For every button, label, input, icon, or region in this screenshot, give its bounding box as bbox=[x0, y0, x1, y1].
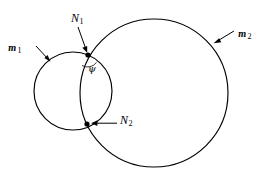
leader-N1 bbox=[78, 27, 87, 53]
label-curve-m2-subscript: 2 bbox=[247, 32, 251, 41]
label-curve-m1: m1 bbox=[8, 38, 21, 55]
label-node-N2-symbol: N bbox=[120, 113, 128, 127]
leader-N2 bbox=[91, 120, 117, 126]
label-node-N2-subscript: 2 bbox=[128, 119, 133, 128]
geometry-figure: m1 m2 N1 N2 ψ bbox=[0, 0, 265, 183]
label-node-N1-subscript: 1 bbox=[79, 17, 84, 26]
node-point-N2 bbox=[84, 121, 89, 126]
label-curve-m1-symbol: m bbox=[8, 43, 15, 52]
label-node-N1: N1 bbox=[71, 12, 84, 26]
label-angle-psi: ψ bbox=[88, 64, 96, 74]
figure-canvas bbox=[0, 0, 265, 183]
label-node-N2: N2 bbox=[120, 114, 133, 128]
leader-m2 bbox=[214, 31, 234, 43]
label-curve-m1-subscript: 1 bbox=[17, 46, 21, 55]
circle-m1 bbox=[34, 52, 112, 130]
leader-m1 bbox=[36, 46, 51, 62]
node-point-N1 bbox=[85, 52, 90, 57]
label-curve-m2: m2 bbox=[238, 24, 251, 41]
label-node-N1-symbol: N bbox=[71, 11, 79, 25]
circle-m2 bbox=[80, 19, 228, 167]
label-curve-m2-symbol: m bbox=[238, 29, 245, 38]
